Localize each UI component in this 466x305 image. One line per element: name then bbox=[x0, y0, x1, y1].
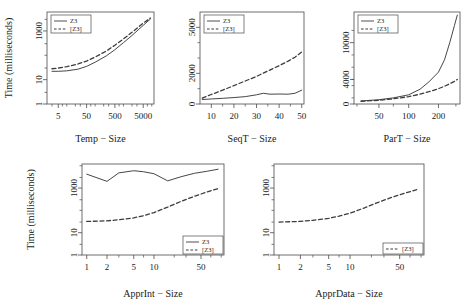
legend-label: [Z3] bbox=[377, 25, 389, 33]
plot-part: 040001000050100200Z3[Z3]ParT − Size bbox=[310, 0, 466, 150]
plot-apprdata: 11010001251050[Z3]ApprData − Size bbox=[232, 152, 432, 305]
x-tick-label: 30 bbox=[252, 111, 262, 121]
y-tick-label: 1000 bbox=[261, 179, 271, 198]
legend-label: [Z3] bbox=[202, 246, 214, 254]
x-tick-label: 10 bbox=[346, 262, 356, 272]
legend-label: [Z3] bbox=[223, 25, 235, 33]
x-tick-label: 10 bbox=[207, 111, 217, 121]
x-tick-label: 2 bbox=[298, 262, 303, 272]
y-tick-label: 2000 bbox=[187, 64, 197, 83]
x-tick-label: 50 bbox=[395, 262, 405, 272]
panel-temp: 11010005505005000Z3[Z3]Temp − SizeTime (… bbox=[0, 0, 160, 150]
x-axis-label: ApprInt − Size bbox=[123, 288, 183, 299]
panel-apprint: 11010001251050Z3[Z3]ApprInt − SizeTime (… bbox=[22, 152, 232, 305]
y-tick-label: 1 bbox=[69, 253, 79, 258]
x-axis-label: Temp − Size bbox=[75, 133, 126, 144]
y-tick-label: 10 bbox=[69, 228, 79, 238]
legend-label: Z3 bbox=[377, 17, 384, 24]
x-axis-label: ParT − Size bbox=[383, 133, 431, 144]
y-tick-label: 10 bbox=[34, 75, 44, 85]
series-line-dashed bbox=[361, 79, 457, 101]
panel-apprdata: 11010001251050[Z3]ApprData − Size bbox=[232, 152, 432, 305]
y-tick-label: 1000 bbox=[69, 179, 79, 198]
x-axis-label: SeqT − Size bbox=[228, 133, 277, 144]
x-tick-label: 5 bbox=[56, 111, 61, 121]
x-tick-label: 40 bbox=[275, 111, 285, 121]
legend-label: Z3 bbox=[70, 17, 77, 24]
y-axis-label: Time (milliseconds) bbox=[25, 169, 37, 249]
y-axis-label: Time (milliseconds) bbox=[3, 18, 15, 98]
plot-seqt: 0200050001020304050Z3[Z3]SeqT − Size bbox=[160, 0, 310, 150]
x-tick-label: 50 bbox=[374, 111, 384, 121]
series-line-dashed bbox=[87, 189, 218, 222]
x-tick-label: 20 bbox=[229, 111, 239, 121]
y-tick-label: 1 bbox=[261, 253, 271, 258]
x-tick-label: 10 bbox=[149, 262, 159, 272]
panel-seqt: 0200050001020304050Z3[Z3]SeqT − Size bbox=[160, 0, 310, 150]
y-tick-label: 0 bbox=[341, 101, 351, 106]
panel-part: 040001000050100200Z3[Z3]ParT − Size bbox=[310, 0, 466, 150]
legend-label: [Z3] bbox=[402, 245, 414, 253]
x-tick-label: 50 bbox=[297, 111, 307, 121]
legend-label: Z3 bbox=[223, 17, 230, 24]
x-tick-label: 5 bbox=[131, 262, 136, 272]
x-tick-label: 5000 bbox=[134, 111, 153, 121]
x-tick-label: 1 bbox=[277, 262, 282, 272]
legend-label: Z3 bbox=[202, 238, 209, 245]
plot-apprint: 11010001251050Z3[Z3]ApprInt − SizeTime (… bbox=[22, 152, 232, 305]
x-tick-label: 50 bbox=[196, 262, 206, 272]
y-tick-label: 4000 bbox=[341, 70, 351, 89]
y-tick-label: 10 bbox=[261, 228, 271, 238]
plot-frame bbox=[274, 164, 424, 255]
x-tick-label: 1 bbox=[84, 262, 89, 272]
series-line-dashed bbox=[279, 189, 418, 222]
x-tick-label: 5 bbox=[326, 262, 331, 272]
y-tick-label: 1 bbox=[34, 102, 44, 107]
multi-panel-figure: 11010005505005000Z3[Z3]Temp − SizeTime (… bbox=[0, 0, 466, 305]
y-tick-label: 1000 bbox=[34, 21, 44, 40]
x-tick-label: 2 bbox=[105, 262, 110, 272]
y-tick-label: 0 bbox=[187, 101, 197, 106]
plot-temp: 11010005505005000Z3[Z3]Temp − SizeTime (… bbox=[0, 0, 160, 150]
y-tick-label: 10000 bbox=[341, 31, 351, 54]
series-line-dashed bbox=[202, 52, 301, 98]
x-tick-label: 200 bbox=[432, 111, 446, 121]
x-tick-label: 500 bbox=[108, 111, 122, 121]
x-tick-label: 50 bbox=[82, 111, 92, 121]
x-tick-label: 100 bbox=[402, 111, 416, 121]
series-line-solid bbox=[87, 169, 218, 181]
y-tick-label: 5000 bbox=[187, 18, 197, 37]
legend-label: [Z3] bbox=[70, 25, 82, 33]
x-axis-label: ApprData − Size bbox=[315, 288, 383, 299]
